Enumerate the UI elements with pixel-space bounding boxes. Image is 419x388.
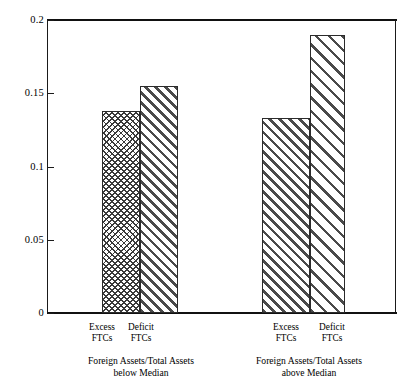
x-axis-label-deficit-ftcs-below-median: Deficit FTCs [121, 322, 161, 343]
group-caption-below-median: Foreign Assets/Total Assets below Median [48, 355, 234, 379]
y-axis-label-0.15: 0.15 [25, 88, 44, 99]
x-axis-label-deficit-ftcs-above-median: Deficit FTCs [312, 322, 352, 343]
x-axis-label-excess-ftcs-above-median: Excess FTCs [266, 322, 306, 343]
bar-deficit-ftcs-below-median [140, 86, 178, 313]
plot-area [47, 20, 396, 313]
y-axis-label-0: 0 [39, 308, 44, 319]
y-axis-label-0.1: 0.1 [30, 162, 44, 173]
bar-chart: 0 0.05 0.1 0.15 0.2 Excess FTCs Deficit … [0, 0, 419, 388]
y-axis-tick-0 [48, 313, 54, 314]
bar-excess-ftcs-below-median [102, 111, 140, 313]
x-axis-label-excess-ftcs-below-median: Excess FTCs [82, 322, 122, 343]
bar-excess-ftcs-above-median [262, 118, 310, 313]
y-axis-label-0.2: 0.2 [30, 15, 44, 26]
bar-deficit-ftcs-above-median [310, 35, 345, 313]
y-axis-label-0.05: 0.05 [25, 235, 44, 246]
group-caption-above-median: Foreign Assets/Total Assets above Median [216, 355, 402, 379]
